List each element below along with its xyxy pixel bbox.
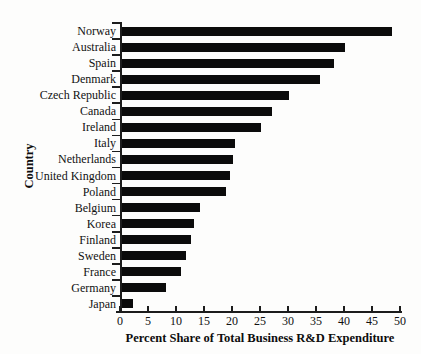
- x-axis-tick: [231, 306, 233, 311]
- y-axis-tick: [112, 231, 120, 233]
- bar-australia: [122, 43, 345, 52]
- bar-netherlands: [122, 155, 233, 164]
- bar-denmark: [122, 75, 320, 84]
- y-axis-tick: [112, 38, 120, 40]
- x-tick-label: 50: [383, 314, 417, 329]
- x-axis-line: [116, 311, 402, 313]
- y-tick-label: Germany: [71, 280, 116, 296]
- y-tick-label: Norway: [77, 23, 116, 39]
- y-tick-label: Denmark: [71, 71, 116, 87]
- bar-finland: [122, 235, 191, 244]
- x-axis-tick: [315, 306, 317, 311]
- bar-norway: [122, 27, 392, 36]
- bar-korea: [122, 219, 194, 228]
- y-tick-label: France: [83, 264, 116, 280]
- plot-area: [120, 23, 400, 312]
- y-tick-label: Spain: [89, 55, 116, 71]
- x-axis-tick: [399, 306, 401, 311]
- x-axis-tick: [287, 306, 289, 311]
- y-axis-tick: [112, 86, 120, 88]
- x-axis-tick: [343, 306, 345, 311]
- bar-czech-republic: [122, 91, 289, 100]
- y-tick-label: Italy: [94, 135, 116, 151]
- y-axis-tick: [112, 263, 120, 265]
- x-axis-tick: [119, 306, 121, 311]
- rd-expenditure-bar-chart: Country NorwayAustraliaSpainDenmarkCzech…: [0, 0, 421, 354]
- bar-sweden: [122, 251, 186, 260]
- y-tick-label: Canada: [80, 103, 116, 119]
- y-tick-labels: NorwayAustraliaSpainDenmarkCzech Republi…: [0, 23, 116, 312]
- bar-poland: [122, 187, 226, 196]
- y-tick-label: Poland: [83, 184, 116, 200]
- y-tick-label: Sweden: [78, 248, 116, 264]
- bar-japan: [122, 299, 133, 308]
- y-axis-tick: [112, 135, 120, 137]
- y-tick-label: Ireland: [82, 119, 116, 135]
- y-axis-tick: [112, 279, 120, 281]
- bar-united-kingdom: [122, 171, 230, 180]
- y-axis-tick: [112, 295, 120, 297]
- y-tick-label: Japan: [89, 296, 116, 312]
- bar-canada: [122, 107, 272, 116]
- y-axis-tick: [112, 119, 120, 121]
- y-axis-tick: [112, 167, 120, 169]
- y-tick-label: Finland: [79, 232, 116, 248]
- bar-germany: [122, 283, 166, 292]
- y-axis-tick: [112, 215, 120, 217]
- x-axis-tick: [147, 306, 149, 311]
- x-axis-tick: [259, 306, 261, 311]
- bar-italy: [122, 139, 235, 148]
- x-axis-tick: [203, 306, 205, 311]
- x-tick-labels: 05101520253035404550: [120, 314, 400, 330]
- y-tick-label: Czech Republic: [40, 87, 116, 103]
- x-axis-tick: [371, 306, 373, 311]
- y-axis-tick: [112, 70, 120, 72]
- y-tick-label: United Kingdom: [35, 168, 116, 184]
- y-tick-label: Belgium: [75, 200, 116, 216]
- y-axis-tick: [112, 247, 120, 249]
- y-tick-label: Korea: [87, 216, 116, 232]
- y-tick-label: Australia: [72, 39, 116, 55]
- y-axis-tick: [112, 102, 120, 104]
- bar-france: [122, 267, 181, 276]
- y-axis-tick: [112, 199, 120, 201]
- bar-spain: [122, 59, 334, 68]
- y-axis-tick: [112, 22, 120, 24]
- y-axis-tick: [112, 151, 120, 153]
- bar-belgium: [122, 203, 200, 212]
- y-tick-label: Netherlands: [58, 151, 116, 167]
- bar-ireland: [122, 123, 261, 132]
- y-axis-tick: [112, 54, 120, 56]
- x-axis-tick: [175, 306, 177, 311]
- x-axis-title: Percent Share of Total Business R&D Expe…: [126, 331, 395, 346]
- y-axis-tick: [112, 183, 120, 185]
